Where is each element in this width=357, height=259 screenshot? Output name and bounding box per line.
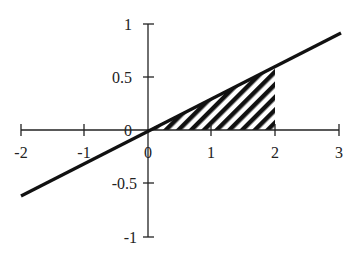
x-tick-label: 3 [335,144,343,161]
y-tick-label: 1 [124,16,132,33]
x-tick-label: -2 [14,144,27,161]
x-tick-label: 1 [207,144,215,161]
y-tick-label: 0 [124,122,132,139]
x-tick-label: 2 [271,144,279,161]
x-tick-label: 0 [144,144,152,161]
y-tick-label: -0.5 [112,175,137,192]
y-tick-label: 0.5 [112,69,132,86]
x-tick-label: -1 [77,144,90,161]
chart: -2 -1 0 1 2 3 1 0.5 0 -0.5 -1 [0,0,357,259]
data-line [21,33,341,196]
y-tick-label: -1 [124,229,137,246]
